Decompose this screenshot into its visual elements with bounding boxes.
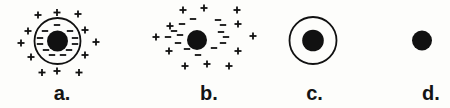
plus-icon [235, 21, 242, 28]
figure-b-group: b. [153, 5, 257, 105]
core-particle [187, 30, 207, 50]
plus-icon [167, 23, 174, 30]
plus-icon [234, 7, 241, 14]
plus-icon [25, 28, 32, 35]
plus-icon [201, 5, 208, 12]
plus-icon [153, 34, 160, 41]
figure-c-group: c. [290, 17, 337, 104]
plus-icon [35, 12, 42, 19]
plus-icon [226, 63, 233, 70]
figure-c-label: c. [306, 82, 323, 104]
plus-icon [182, 63, 189, 70]
plus-icon [82, 27, 89, 34]
figure-d-group: d. [412, 31, 440, 105]
plus-icon [54, 68, 61, 75]
plus-icon [204, 61, 211, 68]
charge-distribution-diagram: a. b. c. d. [0, 0, 450, 108]
plus-icon [18, 40, 25, 47]
plus-icon [28, 54, 35, 61]
plus-icon [250, 33, 257, 40]
figure-b-label: b. [200, 82, 218, 104]
plus-icon [166, 48, 173, 55]
charge-diagram-svg: a. b. c. d. [0, 0, 450, 108]
figure-a-group: a. [18, 9, 100, 104]
plus-icon [75, 11, 82, 18]
figure-d-label: d. [422, 82, 440, 104]
core-particle [47, 31, 68, 52]
plus-icon [93, 39, 100, 46]
plus-icon [235, 48, 242, 55]
plus-icon [54, 9, 61, 16]
figure-a-label: a. [54, 82, 71, 104]
plus-icon [39, 69, 46, 76]
plus-icon [82, 52, 89, 59]
core-particle [412, 31, 432, 51]
plus-icon [180, 7, 187, 14]
core-particle [302, 30, 324, 52]
plus-icon [76, 69, 83, 76]
